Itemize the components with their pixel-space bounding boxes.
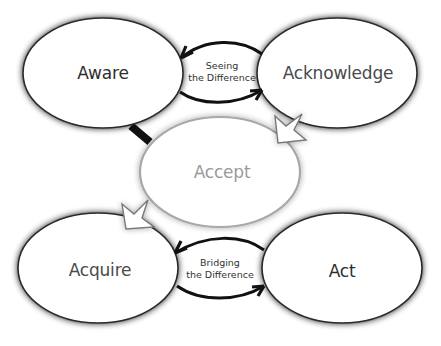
process-cycle-diagram: Aware Acknowledge Accept Acquire Act See… bbox=[0, 0, 441, 346]
node-label-aware: Aware bbox=[77, 63, 128, 83]
caption-seeing-the-difference: Seeing the Difference bbox=[188, 60, 256, 84]
caption-bridging-the-difference: Bridging the Difference bbox=[186, 257, 254, 281]
node-label-accept: Accept bbox=[194, 162, 251, 182]
node-label-act: Act bbox=[329, 261, 356, 281]
node-label-acquire: Acquire bbox=[69, 260, 132, 280]
arrow-left-icon bbox=[181, 42, 262, 58]
aware-accept-link bbox=[131, 126, 150, 142]
hollow-arrow-icon bbox=[122, 200, 154, 229]
arrow-right-icon bbox=[180, 90, 262, 102]
caption-line-1: Bridging bbox=[186, 257, 254, 269]
node-label-acknowledge: Acknowledge bbox=[283, 63, 394, 83]
arrow-right-icon bbox=[177, 286, 264, 298]
arrow-left-icon bbox=[175, 238, 264, 253]
caption-line-1: Seeing bbox=[188, 60, 256, 72]
caption-line-2: the Difference bbox=[186, 269, 254, 281]
caption-line-2: the Difference bbox=[188, 72, 256, 84]
